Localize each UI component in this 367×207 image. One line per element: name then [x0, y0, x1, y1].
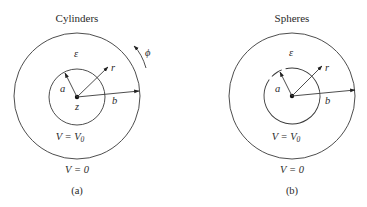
panel-spheres: Spheres ε a r b V = V0 V = 0 (b)	[229, 12, 355, 197]
panel-caption: (a)	[71, 185, 83, 197]
radial-label: r	[111, 62, 116, 73]
axis-label: z	[74, 101, 79, 112]
radial-label: r	[325, 62, 330, 73]
outer-radius-arrow	[77, 91, 139, 97]
inner-radius-label: a	[275, 83, 280, 94]
inner-radius-arrow	[65, 73, 77, 97]
outer-potential-label: V = 0	[280, 164, 305, 175]
radial-arrow	[292, 66, 322, 96]
panel-caption: (b)	[286, 185, 299, 197]
permittivity-label: ε	[289, 47, 294, 58]
panel-cylinders: Cylinders ε a r b z ϕ V = V0 V = 0 (a)	[14, 12, 151, 197]
radial-arrow	[77, 67, 108, 97]
inner-radius-arrow	[280, 72, 292, 96]
azimuth-label: ϕ	[145, 47, 151, 58]
outer-potential-label: V = 0	[65, 164, 90, 175]
inner-potential-label: V = V0	[272, 131, 301, 144]
panel-title: Spheres	[275, 12, 310, 24]
outer-radius-arrow	[292, 90, 355, 96]
inner-radius-label: a	[60, 83, 65, 94]
outer-radius-label: b	[112, 95, 117, 106]
permittivity-label: ε	[74, 48, 79, 59]
outer-radius-label: b	[325, 95, 330, 106]
figure: Cylinders ε a r b z ϕ V = V0 V = 0 (a) S…	[0, 0, 367, 207]
panel-title: Cylinders	[56, 12, 99, 24]
inner-potential-label: V = V0	[56, 131, 85, 144]
